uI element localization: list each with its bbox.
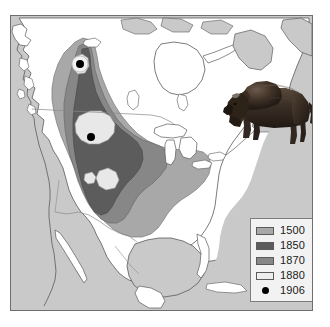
legend-label-1870: 1870 (280, 255, 305, 266)
legend-row-1906[interactable]: 1906 (256, 283, 311, 298)
legend-swatch-1870 (256, 257, 274, 265)
legend-label-1880: 1880 (280, 270, 305, 281)
legend-row-1850[interactable]: 1850 (256, 238, 311, 253)
legend-swatch-1850 (256, 242, 274, 250)
legend-label-1500: 1500 (280, 225, 305, 236)
legend-swatch-1500 (256, 227, 274, 235)
legend-dot-1906-wrap (256, 286, 274, 295)
legend-row-1870[interactable]: 1870 (256, 253, 311, 268)
herd-point-south[interactable] (87, 133, 95, 141)
bison-range-figure: 1500 1850 1870 1880 1906 (0, 0, 330, 327)
herd-point-north[interactable] (76, 60, 84, 68)
legend-swatch-1880 (256, 272, 274, 280)
map-legend: 1500 1850 1870 1880 1906 (250, 218, 313, 302)
map-frame: 1500 1850 1870 1880 1906 (10, 15, 313, 311)
legend-dot-1906 (262, 287, 269, 294)
legend-label-1906: 1906 (280, 285, 305, 296)
legend-row-1500[interactable]: 1500 (256, 223, 311, 238)
legend-label-1850: 1850 (280, 240, 305, 251)
legend-row-1880[interactable]: 1880 (256, 268, 311, 283)
range-1880-pocket-central (75, 111, 115, 144)
